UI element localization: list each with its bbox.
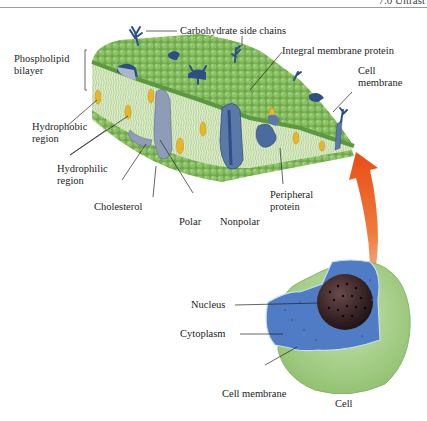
label-carbohydrate-side-chains: Carbohydrate side chains [180, 25, 286, 37]
label-hydrophilic: Hydrophilic [57, 163, 108, 175]
label-hydrophobic-region: region [32, 133, 59, 145]
label-hydrophobic: Hydrophobic [32, 121, 87, 133]
label-membrane: membrane [358, 77, 402, 89]
cell-illustration [235, 260, 410, 394]
label-hydrophilic-region: region [57, 175, 84, 187]
label-integral-membrane-protein: Integral membrane protein [282, 45, 394, 57]
label-peripheral-protein: protein [270, 201, 300, 213]
label-bilayer: bilayer [14, 65, 43, 77]
label-cytoplasm: Cytoplasm [180, 328, 226, 340]
label-cell-membrane: Cell membrane [222, 388, 286, 400]
label-nonpolar: Nonpolar [220, 216, 260, 228]
label-cholesterol: Cholesterol [94, 201, 142, 213]
label-peripheral: Peripheral [270, 189, 313, 201]
label-cell-caption: Cell [335, 398, 353, 410]
label-phospholipid: Phospholipid [14, 53, 69, 65]
label-nucleus: Nucleus [191, 299, 225, 311]
label-polar: Polar [179, 216, 201, 228]
label-cell: Cell [358, 65, 376, 77]
